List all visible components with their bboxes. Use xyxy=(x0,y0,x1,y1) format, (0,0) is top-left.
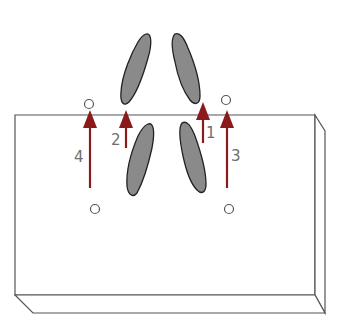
block-bottom-bevel xyxy=(15,295,325,313)
label-3: 3 xyxy=(231,147,241,165)
diagram-canvas: 4 2 1 3 xyxy=(0,0,337,328)
footprint-upper-left xyxy=(121,34,151,104)
label-2: 2 xyxy=(111,131,121,149)
footprint-upper-right xyxy=(172,34,200,104)
top-right-circle-icon xyxy=(222,96,231,105)
block xyxy=(15,115,325,313)
label-4: 4 xyxy=(74,148,84,166)
bottom-right-circle-icon xyxy=(225,205,234,214)
label-1: 1 xyxy=(206,124,216,142)
top-left-circle-icon xyxy=(85,100,94,109)
arrow-head-icon xyxy=(196,102,210,120)
block-right-side xyxy=(315,115,325,313)
block-front-face xyxy=(15,115,315,295)
bottom-left-circle-icon xyxy=(91,205,100,214)
